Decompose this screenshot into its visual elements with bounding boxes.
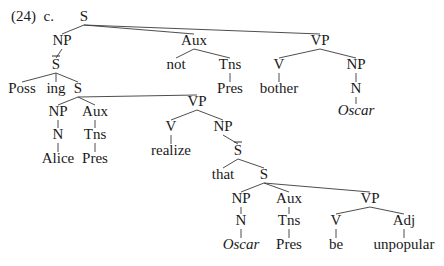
- tree-node-oscar1: Oscar: [338, 102, 375, 118]
- tree-node-n5: N: [351, 80, 362, 96]
- tree-node-n4: N: [236, 212, 247, 228]
- tree-node-bother: bother: [260, 80, 298, 96]
- tree-node-aux1: Aux: [181, 32, 207, 48]
- tree-node-tns1: Tns: [219, 56, 242, 72]
- tree-node-pres1: Pres: [217, 80, 243, 96]
- tree-node-v2: V: [166, 118, 177, 134]
- tree-node-unpopular: unpopular: [374, 236, 435, 252]
- tree-node-oscar2: Oscar: [223, 236, 260, 252]
- tree-node-vp4: VP: [360, 190, 379, 206]
- tree-node-realize: realize: [151, 142, 191, 158]
- tree-node-pres2: Pres: [82, 150, 108, 166]
- tree-node-alice: Alice: [42, 150, 75, 166]
- tree-edge: [78, 95, 197, 97]
- tree-node-tns2: Tns: [84, 126, 107, 142]
- tree-node-vp1: VP: [310, 32, 329, 48]
- tree-node-not: not: [166, 56, 186, 72]
- tree-edge: [84, 25, 194, 34]
- tree-node-s3: S: [260, 166, 268, 182]
- tree-node-that: that: [212, 166, 235, 182]
- tree-node-np5: NP: [346, 56, 365, 72]
- tree-node-s0: S: [80, 8, 88, 24]
- tree-node-vp2: VP: [187, 93, 206, 109]
- tree-node-be: be: [329, 236, 344, 252]
- tree-node-v1: V: [274, 56, 285, 72]
- tree-node-pres4: Pres: [276, 236, 302, 252]
- tree-node-aux2: Aux: [82, 103, 108, 119]
- tree-node-v4: V: [331, 212, 342, 228]
- tree-node-sbar1: S: [52, 56, 60, 72]
- tree-node-adj4: Adj: [393, 212, 416, 228]
- tree-node-aux4: Aux: [276, 190, 302, 206]
- tree-node-ing: ing: [46, 80, 66, 96]
- tree-node-np4: NP: [231, 190, 250, 206]
- tree-nodes: SNPSPossingSNPNAliceAuxTnsPresVPVrealize…: [8, 8, 434, 252]
- tree-node-np2: NP: [48, 103, 67, 119]
- syntax-tree-diagram: SNPSPossingSNPNAliceAuxTnsPresVPVrealize…: [0, 0, 444, 266]
- tree-node-poss: Poss: [8, 80, 36, 96]
- tree-node-sbar3: S: [234, 142, 242, 158]
- tree-node-np1: NP: [52, 32, 71, 48]
- tree-edge: [279, 49, 320, 58]
- tree-node-np3: NP: [213, 118, 232, 134]
- tree-node-s2: S: [74, 80, 82, 96]
- tree-node-tns4: Tns: [278, 212, 301, 228]
- tree-node-n2: N: [53, 126, 64, 142]
